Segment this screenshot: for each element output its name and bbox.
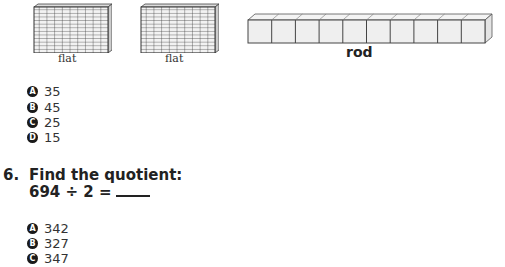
choice-bubble-b[interactable]: B xyxy=(27,238,38,249)
rod-cubes-icon xyxy=(246,12,494,44)
choice-text: 45 xyxy=(44,100,61,115)
choice-b[interactable]: B 45 xyxy=(27,100,61,114)
choice-text: 342 xyxy=(44,221,69,236)
choice-c[interactable]: C 25 xyxy=(27,115,61,129)
flat-block-2 xyxy=(139,3,219,53)
choice-text: 327 xyxy=(44,236,69,251)
choice-text: 347 xyxy=(44,251,69,266)
rod-label: rod xyxy=(346,44,373,60)
expression-text: 694 ÷ 2 = xyxy=(29,183,112,201)
flat-label-1: flat xyxy=(58,52,76,65)
choice-a[interactable]: A 342 xyxy=(27,221,69,235)
choice-d[interactable]: D 15 xyxy=(27,130,61,144)
flat-grid-icon xyxy=(139,3,219,53)
choice-b[interactable]: B 327 xyxy=(27,236,69,250)
question-expression: 694 ÷ 2 = xyxy=(29,183,150,201)
flat-label-2: flat xyxy=(165,52,183,65)
choice-text: 15 xyxy=(44,130,61,145)
choice-bubble-b[interactable]: B xyxy=(27,102,38,113)
choice-a[interactable]: A 35 xyxy=(27,84,61,98)
choice-bubble-a[interactable]: A xyxy=(27,223,38,234)
choice-bubble-d[interactable]: D xyxy=(27,132,38,143)
flat-grid-icon xyxy=(32,3,112,53)
flat-block-1 xyxy=(32,3,112,53)
choice-c[interactable]: C 347 xyxy=(27,251,69,265)
question-prompt: Find the quotient: xyxy=(29,166,182,184)
choice-text: 35 xyxy=(44,84,61,99)
choice-bubble-c[interactable]: C xyxy=(27,117,38,128)
rod-block xyxy=(246,12,494,44)
choice-text: 25 xyxy=(44,115,61,130)
choice-bubble-a[interactable]: A xyxy=(27,86,38,97)
choice-bubble-c[interactable]: C xyxy=(27,253,38,264)
question-number: 6. xyxy=(3,166,19,184)
answer-blank xyxy=(116,183,150,197)
